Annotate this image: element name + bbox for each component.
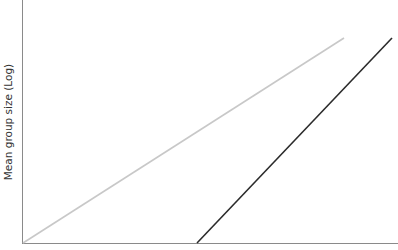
plot-lines [23,38,392,243]
series-light-line [23,38,344,243]
y-axis-label: Mean group size (Log) [2,64,14,180]
line-chart: Mean group size (Log) [0,0,398,250]
